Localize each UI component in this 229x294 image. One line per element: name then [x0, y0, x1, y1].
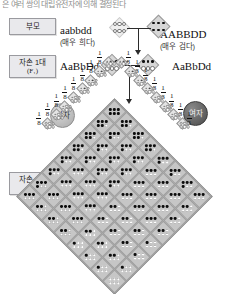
punnett-cell-allele-dots	[145, 144, 156, 152]
punnett-cell-allele-dots	[133, 253, 144, 261]
punnett-cell-allele-dots	[96, 192, 107, 200]
punnett-cell-allele-dots	[109, 253, 120, 261]
punnett-cell-allele-dots	[133, 132, 144, 140]
punnett-cell-allele-dots	[36, 180, 47, 188]
parent-left-gamete-dots	[113, 21, 126, 34]
punnett-cell-allele-dots	[121, 192, 132, 200]
parent-cross-arrow-icon	[135, 50, 141, 55]
punnett-cell-allele-dots	[121, 144, 132, 152]
parent-right-gamete-dots	[151, 19, 166, 34]
cutoff-header-text: 은 여러 쌍의 대립유전자에 의해 결정된다	[2, 0, 227, 9]
punnett-cell-allele-dots	[96, 241, 107, 249]
punnett-cell-allele-dots	[169, 168, 180, 176]
punnett-cell-allele-dots	[157, 180, 168, 188]
punnett-cell-allele-dots	[133, 204, 144, 212]
punnett-cell-allele-dots	[121, 216, 132, 224]
punnett-cell-allele-dots	[72, 192, 83, 200]
punnett-cell-allele-dots	[84, 204, 95, 212]
punnett-cell-allele-dots	[48, 168, 59, 176]
parent-left-phenotype: (매우 희다)	[60, 38, 95, 47]
punnett-cell-allele-dots	[109, 132, 120, 140]
punnett-cell-allele-dots	[133, 229, 144, 237]
punnett-cell-allele-dots	[121, 265, 132, 273]
generation-tag-f1-sublabel: (F₁)	[27, 67, 38, 76]
f1-right-genotype: AaBbDd	[172, 60, 211, 72]
punnett-cell-allele-dots	[72, 216, 83, 224]
punnett-cell-allele-dots	[169, 192, 180, 200]
punnett-cell-allele-dots	[109, 204, 120, 212]
punnett-cell-allele-dots	[145, 216, 156, 224]
punnett-cell-allele-dots	[60, 204, 71, 212]
punnett-cell-allele-dots	[96, 144, 107, 152]
punnett-cell-allele-dots	[96, 168, 107, 176]
punnett-cell-allele-dots	[72, 168, 83, 176]
punnett-cell-allele-dots	[145, 192, 156, 200]
punnett-cell-allele-dots	[133, 156, 144, 164]
punnett-cell-allele-dots	[193, 192, 204, 200]
generation-tag-parent-label: 부모	[26, 22, 40, 31]
punnett-cell-allele-dots	[84, 132, 95, 140]
punnett-cell-allele-dots	[36, 204, 47, 212]
punnett-cell-allele-dots	[84, 180, 95, 188]
punnett-cell-allele-dots	[157, 229, 168, 237]
punnett-cell-allele-dots	[121, 120, 132, 128]
punnett-cell-allele-dots	[84, 253, 95, 261]
punnett-cell-allele-dots	[72, 144, 83, 152]
punnett-cell-allele-dots	[181, 204, 192, 212]
parent-left-genotype: aabbdd	[60, 24, 92, 36]
punnett-cell-allele-dots	[109, 107, 120, 115]
punnett-cell-allele-dots	[109, 180, 120, 188]
punnett-cell-allele-dots	[96, 265, 107, 273]
punnett-cell-allele-dots	[121, 241, 132, 249]
generation-tag-f1: 자손 1대 (F₁)	[9, 55, 56, 78]
punnett-cell-allele-dots	[96, 120, 107, 128]
generation-tag-f1-label: 자손 1대	[19, 58, 46, 67]
parent-cross-line-vertical	[138, 28, 139, 52]
punnett-cell-allele-dots	[84, 229, 95, 237]
parent-right-phenotype: (매우 검다)	[160, 42, 195, 51]
punnett-cell-allele-dots	[109, 229, 120, 237]
punnett-cell-allele-dots	[96, 216, 107, 224]
punnett-cell-allele-dots	[48, 216, 59, 224]
f1-cross-arrow-icon	[126, 99, 132, 104]
punnett-cell-allele-dots	[48, 192, 59, 200]
punnett-cell-allele-dots	[169, 216, 180, 224]
punnett-cell-allele-dots	[121, 168, 132, 176]
punnett-cell-allele-dots	[145, 168, 156, 176]
punnett-cell-allele-dots	[72, 241, 83, 249]
punnett-cell-allele-dots	[157, 156, 168, 164]
punnett-cell-allele-dots	[145, 241, 156, 249]
punnett-cell-allele-dots	[60, 229, 71, 237]
punnett-cell-allele-dots	[84, 156, 95, 164]
punnett-cell-allele-dots	[108, 277, 119, 285]
punnett-cell-allele-dots	[157, 204, 168, 212]
punnett-cell-allele-dots	[181, 180, 192, 188]
punnett-cell-allele-dots	[24, 192, 35, 200]
generation-tag-parent: 부모	[9, 18, 56, 35]
punnett-cell-allele-dots	[60, 156, 71, 164]
punnett-cell-allele-dots	[109, 156, 120, 164]
punnett-cell-allele-dots	[133, 180, 144, 188]
punnett-cell-allele-dots	[60, 180, 71, 188]
parent-cross-line-horizontal	[127, 28, 151, 29]
